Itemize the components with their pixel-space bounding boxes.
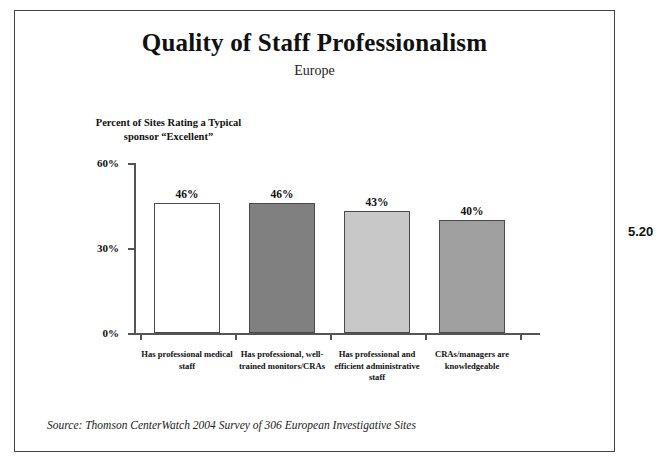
page-title: Quality of Staff Professionalism bbox=[15, 29, 614, 57]
y-tick-label-60: 60% bbox=[97, 157, 119, 169]
y-axis-line bbox=[134, 163, 136, 333]
y-axis-caption-line-1: Percent of Sites Rating a Typical bbox=[61, 116, 276, 130]
x-tick-1 bbox=[235, 334, 237, 340]
y-tick-0: 0% bbox=[128, 333, 134, 335]
y-tick-60: 60% bbox=[128, 163, 134, 165]
figure-number: 5.20 bbox=[628, 224, 653, 239]
category-label-line: efficient administrative bbox=[330, 361, 425, 373]
category-label: Has professional andefficient administra… bbox=[330, 349, 425, 384]
x-axis-line bbox=[134, 333, 540, 335]
bar-value-label: 46% bbox=[176, 188, 199, 200]
x-tick-0 bbox=[140, 334, 142, 340]
bar-value-label: 46% bbox=[271, 188, 294, 200]
category-label: Has professional medicalstaff bbox=[140, 349, 235, 372]
source-note: Source: Thomson CenterWatch 2004 Survey … bbox=[47, 419, 416, 431]
category-label-line: knowledgeable bbox=[425, 361, 520, 373]
x-tick-3 bbox=[425, 334, 427, 340]
x-tick-2 bbox=[330, 334, 332, 340]
category-label-line: Has professional and bbox=[330, 349, 425, 361]
category-label-line: staff bbox=[330, 372, 425, 384]
category-label: Has professional, well-trained monitors/… bbox=[235, 349, 330, 372]
bar-value-label: 43% bbox=[366, 196, 389, 208]
category-label-line: Has professional medical bbox=[140, 349, 235, 361]
bar: 40% bbox=[439, 220, 505, 333]
category-label: CRAs/managers areknowledgeable bbox=[425, 349, 520, 372]
category-label-line: staff bbox=[140, 361, 235, 373]
category-label-line: trained monitors/CRAs bbox=[235, 361, 330, 373]
chart-subtitle: Europe bbox=[15, 63, 614, 79]
x-tick-4 bbox=[520, 334, 522, 340]
bar: 43% bbox=[344, 211, 410, 333]
y-tick-label-0: 0% bbox=[103, 327, 120, 339]
bar-value-label: 40% bbox=[461, 205, 484, 217]
y-axis-caption: Percent of Sites Rating a Typical sponso… bbox=[61, 116, 276, 144]
y-axis-caption-line-2: sponsor “Excellent” bbox=[61, 130, 276, 144]
y-tick-30: 30% bbox=[128, 248, 134, 250]
figure-frame: Quality of Staff Professionalism Europe … bbox=[14, 10, 615, 452]
category-label-line: CRAs/managers are bbox=[425, 349, 520, 361]
category-label-line: Has professional, well- bbox=[235, 349, 330, 361]
bar: 46% bbox=[154, 203, 220, 333]
bar: 46% bbox=[249, 203, 315, 333]
y-tick-label-30: 30% bbox=[97, 242, 119, 254]
plot-area: 0%30%60% 46%46%43%40% Has professional m… bbox=[134, 163, 554, 343]
